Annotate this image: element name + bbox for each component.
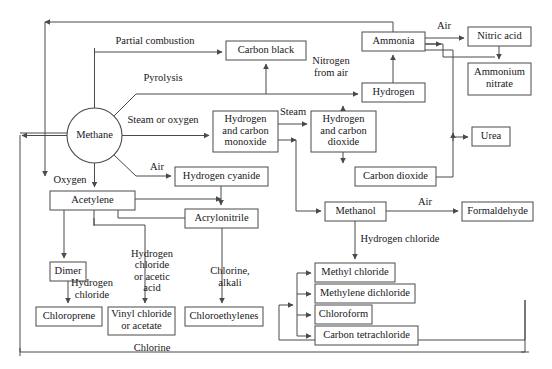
node-label-urea: Urea <box>481 130 502 141</box>
node-nitric_acid[interactable]: Nitric acid <box>468 27 531 46</box>
node-methane[interactable]: Methane <box>67 108 122 163</box>
edge-label-hydrogen_chloride_me: Hydrogen chloride <box>360 233 439 244</box>
flow-diagram-page: MethaneCarbon blackAmmoniaNitric acidAmm… <box>0 0 552 369</box>
node-vinyl_chloride[interactable]: Vinyl chlorideor acetate <box>108 307 175 335</box>
node-formaldehyde[interactable]: Formaldehyde <box>462 202 533 221</box>
edge-carbon-dioxide-urea <box>436 137 453 177</box>
node-ammonia[interactable]: Ammonia <box>362 32 425 51</box>
node-layer: MethaneCarbon blackAmmoniaNitric acidAmm… <box>36 27 533 345</box>
node-label-carbon_tetrachloride: Carbon tetrachloride <box>323 329 410 340</box>
edge-label-steam_or_oxygen: Steam or oxygen <box>127 114 199 125</box>
node-carbon_tetrachloride[interactable]: Carbon tetrachloride <box>315 326 418 345</box>
node-h2_co[interactable]: Hydrogenand carbonmonoxide <box>213 111 278 152</box>
node-label-hydrogen: Hydrogen <box>373 86 416 97</box>
node-carbon_dioxide[interactable]: Carbon dioxide <box>355 167 436 186</box>
node-label-methane: Methane <box>76 129 113 140</box>
edge-label-air_nitric: Air <box>437 20 452 31</box>
node-label-nitric_acid: Nitric acid <box>477 30 522 41</box>
node-label-ammonia: Ammonia <box>373 35 415 46</box>
node-methylene_dichloride[interactable]: Methylene dichloride <box>315 284 415 303</box>
edge-label-air_hcn: Air <box>150 161 165 172</box>
edge-label-hydrogen_chloride_dm: Hydrogenchloride <box>71 278 114 301</box>
node-acetylene[interactable]: Acetylene <box>50 191 135 210</box>
edge-label-air_formaldehyde: Air <box>418 196 433 207</box>
edge-label-partial_combustion: Partial combustion <box>115 35 195 46</box>
process-flow-diagram: MethaneCarbon blackAmmoniaNitric acidAmm… <box>0 0 552 369</box>
node-label-chloroprene: Chloroprene <box>43 310 96 321</box>
node-chloroform[interactable]: Chloroform <box>315 305 372 324</box>
node-hydrogen[interactable]: Hydrogen <box>362 83 425 102</box>
node-methyl_chloride[interactable]: Methyl chloride <box>315 263 395 282</box>
edge-label-oxygen: Oxygen <box>53 174 87 185</box>
node-label-h2_co: Hydrogenand carbonmonoxide <box>222 113 269 147</box>
node-label-acetylene: Acetylene <box>71 194 114 205</box>
node-chloroethylenes[interactable]: Chloroethylenes <box>185 307 263 326</box>
edge-layer <box>20 22 529 356</box>
edge-label-chlorine_alkali: Chlorine,alkali <box>210 266 249 289</box>
node-label-hydrogen_cyanide: Hydrogen cyanide <box>183 170 261 181</box>
node-label-methanol: Methanol <box>335 205 375 216</box>
node-ammonium_nitrate[interactable]: Ammoniumnitrate <box>468 63 531 95</box>
node-methanol[interactable]: Methanol <box>325 202 386 221</box>
node-label-carbon_dioxide: Carbon dioxide <box>363 170 428 181</box>
node-label-methyl_chloride: Methyl chloride <box>321 266 389 277</box>
node-label-chloroform: Chloroform <box>319 308 369 319</box>
edge-label-hcl_or_acetic: Hydrogenchlorideor aceticacid <box>131 248 174 294</box>
node-label-carbon_black: Carbon black <box>238 44 295 55</box>
edge-ammonia-urea <box>425 50 468 137</box>
node-h2_co2[interactable]: Hydrogenand carbondioxide <box>311 111 376 152</box>
edge-label-steam: Steam <box>280 106 306 117</box>
node-hydrogen_cyanide[interactable]: Hydrogen cyanide <box>175 167 268 186</box>
node-label-dimer: Dimer <box>55 265 82 276</box>
edge-label-nitrogen_from_air: Nitrogenfrom air <box>312 56 350 79</box>
node-urea[interactable]: Urea <box>472 127 510 146</box>
node-label-formaldehyde: Formaldehyde <box>467 205 528 216</box>
node-label-acrylonitrile: Acrylonitrile <box>194 212 249 223</box>
node-chloroprene[interactable]: Chloroprene <box>36 307 102 326</box>
node-acrylonitrile[interactable]: Acrylonitrile <box>185 209 258 228</box>
node-label-methylene_dichloride: Methylene dichloride <box>320 287 410 298</box>
edge-label-pyrolysis: Pyrolysis <box>143 72 182 83</box>
edge-label-chlorine_bottom: Chlorine <box>134 342 171 353</box>
node-label-chloroethylenes: Chloroethylenes <box>190 310 259 321</box>
edge-ammonia-recycle-top <box>45 22 393 32</box>
node-carbon_black[interactable]: Carbon black <box>226 41 306 60</box>
